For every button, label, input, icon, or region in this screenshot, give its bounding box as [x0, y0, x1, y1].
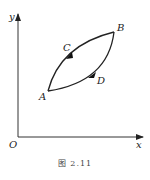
arrow-d-icon — [88, 72, 96, 78]
axis-label-x: x — [136, 140, 142, 150]
point-label-c: C — [63, 43, 71, 53]
point-label-d: D — [97, 76, 105, 86]
arrow-c-icon — [66, 52, 73, 59]
figure-caption: 图 2.11 — [0, 157, 150, 168]
point-label-a: A — [39, 92, 46, 102]
point-label-b: B — [117, 23, 124, 33]
axis-label-y: y — [9, 12, 15, 22]
diagram-canvas — [0, 0, 150, 180]
origin-label: O — [9, 140, 17, 150]
